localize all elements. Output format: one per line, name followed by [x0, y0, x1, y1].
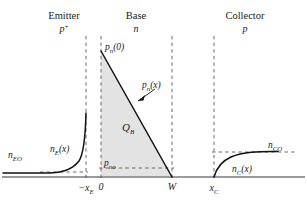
- region-title-base: Base: [126, 10, 147, 21]
- emitter-carrier-curve: [3, 113, 86, 173]
- label-n-C-of-x: nC(x): [232, 164, 252, 176]
- region-doping-collector: p: [242, 23, 248, 34]
- axis-tick-xC: xC: [209, 182, 219, 195]
- base-profile-arrowhead: [138, 95, 145, 101]
- label-p-n-of-x: pn(x): [141, 80, 161, 92]
- axis-tick-W: W: [168, 181, 178, 192]
- label-n-E-of-x: nE(x): [50, 144, 69, 156]
- bjt-minority-carrier-diagram: Emitter p+ Base n Collector p −xE 0 W xC…: [0, 0, 307, 207]
- label-p-n-zero: pn(0): [104, 42, 124, 54]
- region-title-collector: Collector: [225, 10, 265, 21]
- region-doping-base: n: [134, 23, 139, 34]
- axis-tick-zero: 0: [99, 181, 104, 192]
- label-n-CO: nCO: [268, 140, 282, 152]
- diagram-canvas: Emitter p+ Base n Collector p −xE 0 W xC…: [0, 0, 307, 207]
- label-n-EO: nEO: [8, 150, 22, 162]
- region-title-emitter: Emitter: [48, 10, 80, 21]
- axis-tick-minus-xE: −xE: [78, 182, 94, 195]
- region-doping-emitter: p+: [59, 23, 69, 35]
